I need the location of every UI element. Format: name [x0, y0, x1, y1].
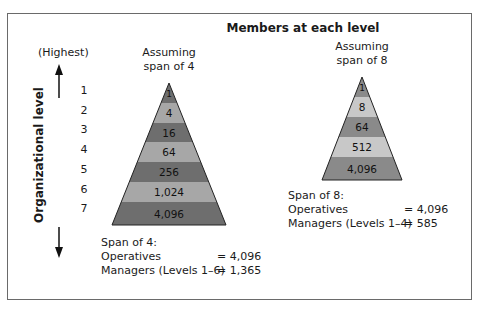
right-summary-row: Operatives = 4,096 [288, 203, 448, 217]
left-pyramid-band-label: 16 [162, 127, 176, 139]
right-summary: Span of 8: Operatives = 4,096 Managers (… [288, 189, 448, 231]
right-pyramid-band-label: 1 [359, 83, 365, 93]
left-summary-value: = 4,096 [217, 250, 261, 264]
left-summary-value: = 1,365 [217, 264, 261, 278]
left-summary: Span of 4: Operatives = 4,096 Managers (… [101, 236, 261, 278]
right-summary-heading: Span of 8: [288, 189, 448, 203]
right-pyramid-band-label: 8 [359, 101, 366, 113]
left-summary-heading: Span of 4: [101, 236, 261, 250]
left-summary-row: Managers (Levels 1–6) = 1,365 [101, 264, 261, 278]
left-pyramid-band-label: 4,096 [154, 208, 184, 220]
left-pyramid-band-label: 256 [159, 166, 179, 178]
right-summary-value: = 4,096 [404, 203, 448, 217]
left-pyramid-band-label: 4 [166, 107, 173, 119]
left-pyramid-band-label: 64 [162, 146, 176, 158]
right-summary-label: Operatives [288, 203, 404, 217]
left-summary-label: Managers (Levels 1–6) [101, 264, 217, 278]
left-summary-row: Operatives = 4,096 [101, 250, 261, 264]
left-pyramid-band-label: 1,024 [154, 186, 184, 198]
right-summary-value: = 585 [404, 217, 438, 231]
right-pyramid-band-label: 512 [352, 141, 372, 153]
right-pyramid-band-label: 4,096 [347, 163, 377, 175]
right-pyramid-band-label: 64 [355, 121, 369, 133]
right-summary-row: Managers (Levels 1–4) = 585 [288, 217, 448, 231]
left-summary-label: Operatives [101, 250, 217, 264]
right-summary-label: Managers (Levels 1–4) [288, 217, 404, 231]
left-pyramid-band-label: 1 [166, 89, 172, 99]
